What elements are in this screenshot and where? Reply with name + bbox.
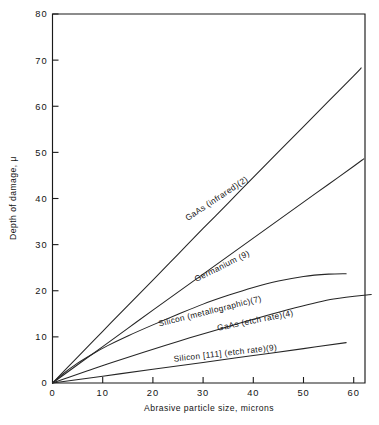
data-curves: [53, 68, 372, 383]
y-tick-label: 0: [41, 378, 47, 388]
curve-labels: GaAs (infrared)(2)Germanium (9)Silicon (…: [157, 174, 294, 364]
y-tick-label: 50: [35, 148, 47, 158]
x-tick-label: 50: [297, 388, 309, 398]
y-tick-label: 20: [35, 286, 47, 296]
curve-4: [53, 343, 347, 383]
x-tick-label: 60: [348, 388, 360, 398]
x-tick-label: 20: [147, 388, 159, 398]
x-axis-title: Abrasive particle size, microns: [144, 403, 274, 413]
depth-of-damage-line-chart: 01020304050607080 0102030405060 GaAs (in…: [0, 0, 379, 425]
x-tick-label: 30: [197, 388, 209, 398]
x-tick-label: 40: [247, 388, 259, 398]
y-tick-label: 70: [35, 56, 47, 66]
chart-figure: 01020304050607080 0102030405060 GaAs (in…: [0, 0, 379, 425]
x-tick-label: 10: [97, 388, 109, 398]
y-tick-label: 80: [35, 9, 47, 19]
y-tick-label: 60: [35, 102, 47, 112]
curve-label-4: Silicon [111] (etch rate)(9): [173, 342, 277, 364]
y-tick-label: 10: [35, 332, 47, 342]
y-axis-tick-labels: 01020304050607080: [35, 9, 47, 388]
curve-label-1: Germanium (9): [193, 248, 251, 284]
x-axis-tick-labels: 0102030405060: [49, 388, 359, 398]
y-axis-ticks: [53, 14, 59, 337]
y-axis-title: Depth of damage, μ: [8, 156, 18, 240]
x-axis-ticks: [103, 377, 354, 383]
curve-2: [53, 274, 347, 383]
y-tick-label: 30: [35, 240, 47, 250]
curve-0: [53, 68, 362, 383]
x-tick-label: 0: [49, 388, 55, 398]
y-tick-label: 40: [35, 194, 47, 204]
